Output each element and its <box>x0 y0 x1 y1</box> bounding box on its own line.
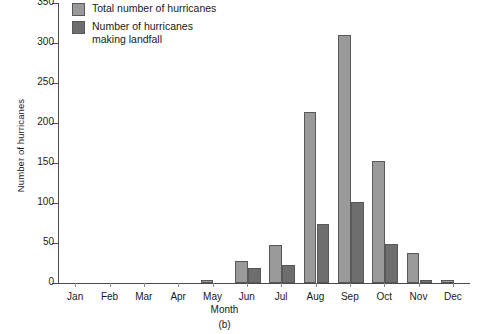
bar-jun-total <box>235 261 248 283</box>
x-tick-mark-dec <box>453 283 454 287</box>
x-tick-mark-feb <box>110 283 111 287</box>
y-tick-label: 350 <box>24 0 54 7</box>
bar-sep-total <box>338 35 351 283</box>
legend-item-total: Total number of hurricanes <box>72 2 216 16</box>
y-tick-label: 250 <box>24 76 54 87</box>
bar-dec-total <box>441 280 454 283</box>
y-tick-label: 0 <box>24 276 54 287</box>
bar-jul-total <box>269 245 282 283</box>
x-tick-mark-apr <box>178 283 179 287</box>
x-tick-mark-nov <box>419 283 420 287</box>
y-tick-label: 150 <box>24 156 54 167</box>
y-tick-label: 50 <box>24 236 54 247</box>
y-axis-label: Number of hurricanes <box>15 76 26 216</box>
x-axis-line <box>58 283 470 284</box>
bar-oct-total <box>372 161 385 283</box>
x-tick-mark-jan <box>75 283 76 287</box>
x-tick-mark-jun <box>247 283 248 287</box>
bar-may-total <box>201 280 214 283</box>
bar-aug-total <box>304 112 317 283</box>
legend-label-total: Total number of hurricanes <box>92 2 216 15</box>
bar-nov-total <box>407 253 420 283</box>
bar-sep-landfall <box>351 202 364 283</box>
figure-caption: (b) <box>0 319 477 330</box>
legend-swatch-total-icon <box>72 3 85 16</box>
y-tick-label: 300 <box>24 36 54 47</box>
legend-label-landfall: Number of hurricanes making landfall <box>92 20 193 45</box>
y-tick-label: 200 <box>24 116 54 127</box>
x-axis-label: Month <box>0 304 477 315</box>
x-tick-mark-oct <box>384 283 385 287</box>
bar-aug-landfall <box>317 224 330 283</box>
hurricane-bar-chart-figure: Number of hurricanes 0501001502002503003… <box>0 0 477 334</box>
x-tick-mark-mar <box>144 283 145 287</box>
x-tick-mark-may <box>213 283 214 287</box>
bar-jul-landfall <box>282 265 295 283</box>
bar-oct-landfall <box>385 244 398 283</box>
x-tick-label-dec: Dec <box>433 291 473 302</box>
x-tick-mark-sep <box>350 283 351 287</box>
y-tick-label: 100 <box>24 196 54 207</box>
bar-jun-landfall <box>248 268 261 283</box>
legend-swatch-landfall-icon <box>72 21 85 34</box>
x-tick-mark-jul <box>281 283 282 287</box>
chart-legend: Total number of hurricanes Number of hur… <box>72 2 216 49</box>
bar-nov-landfall <box>420 280 433 283</box>
legend-item-landfall: Number of hurricanes making landfall <box>72 20 216 45</box>
x-tick-mark-aug <box>316 283 317 287</box>
